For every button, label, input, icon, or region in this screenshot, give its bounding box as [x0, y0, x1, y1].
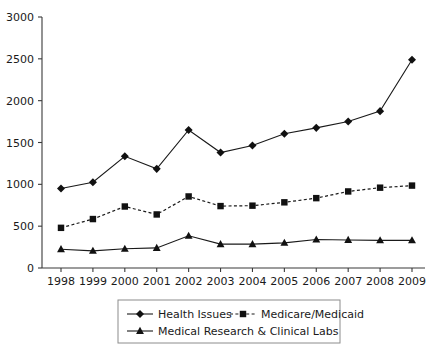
data-point-marker: [344, 118, 352, 126]
data-point-marker: [376, 107, 384, 115]
series-medicare-medicaid: [58, 182, 415, 231]
legend-item[interactable]: Medical Research & Clinical Labs: [127, 325, 339, 338]
data-point-marker: [280, 130, 288, 138]
legend-marker-sample: [136, 310, 144, 318]
y-tick-label: 500: [13, 220, 34, 233]
legend-item-label: Medical Research & Clinical Labs: [158, 325, 339, 338]
x-tick-label: 2000: [111, 275, 139, 288]
series-medical-research-clinical-labs: [57, 232, 416, 254]
y-tick-label: 3000: [6, 11, 34, 24]
y-tick-label: 1500: [6, 137, 34, 150]
data-point-marker: [281, 199, 287, 205]
legend-item[interactable]: Medicare/Medicaid: [230, 308, 364, 321]
data-point-marker: [185, 232, 193, 239]
legend-marker-sample: [240, 311, 246, 317]
chart-legend: Health IssuesMedicare/MedicaidMedical Re…: [118, 300, 364, 343]
series-health-issues: [57, 56, 416, 193]
y-tick-label: 0: [27, 262, 34, 275]
data-point-marker: [57, 245, 65, 252]
data-point-marker: [122, 203, 128, 209]
x-tick-label: 2003: [207, 275, 235, 288]
data-point-marker: [345, 188, 351, 194]
data-point-marker: [248, 141, 256, 149]
data-point-marker: [312, 235, 320, 242]
data-point-marker: [409, 182, 415, 188]
legend-marker-sample: [136, 327, 144, 334]
chart-canvas: 050010001500200025003000 199819992000200…: [0, 0, 434, 350]
data-point-marker: [313, 195, 319, 201]
line-chart: 050010001500200025003000 199819992000200…: [0, 0, 434, 350]
data-point-marker: [57, 184, 65, 192]
x-tick-label: 1998: [47, 275, 75, 288]
data-point-marker: [90, 216, 96, 222]
series-line: [61, 186, 412, 228]
legend-item-label: Health Issues: [158, 308, 232, 321]
x-tick-label: 2004: [238, 275, 266, 288]
y-tick-label: 1000: [6, 178, 34, 191]
data-point-marker: [408, 56, 416, 64]
data-point-marker: [154, 211, 160, 217]
y-tick-label: 2500: [6, 53, 34, 66]
data-point-marker: [217, 203, 223, 209]
x-tick-label: 2002: [175, 275, 203, 288]
data-point-marker: [217, 149, 225, 157]
data-point-marker: [408, 236, 416, 243]
x-axis: 1998199920002001200220032004200520062007…: [42, 268, 426, 288]
x-tick-label: 2006: [302, 275, 330, 288]
y-tick-label: 2000: [6, 95, 34, 108]
data-point-marker: [249, 202, 255, 208]
x-tick-label: 2009: [398, 275, 426, 288]
data-point-marker: [185, 193, 191, 199]
x-tick-label: 2005: [270, 275, 298, 288]
series-line: [61, 236, 412, 251]
legend-item[interactable]: Health Issues: [127, 308, 232, 321]
data-point-marker: [312, 124, 320, 132]
x-tick-label: 2007: [334, 275, 362, 288]
y-axis: 050010001500200025003000: [6, 11, 42, 275]
legend-item-label: Medicare/Medicaid: [261, 308, 364, 321]
x-tick-label: 1999: [79, 275, 107, 288]
x-tick-label: 2008: [366, 275, 394, 288]
x-tick-label: 2001: [143, 275, 171, 288]
data-point-marker: [58, 225, 64, 231]
series-line: [61, 60, 412, 189]
data-point-marker: [377, 184, 383, 190]
series-layer: [57, 56, 416, 254]
